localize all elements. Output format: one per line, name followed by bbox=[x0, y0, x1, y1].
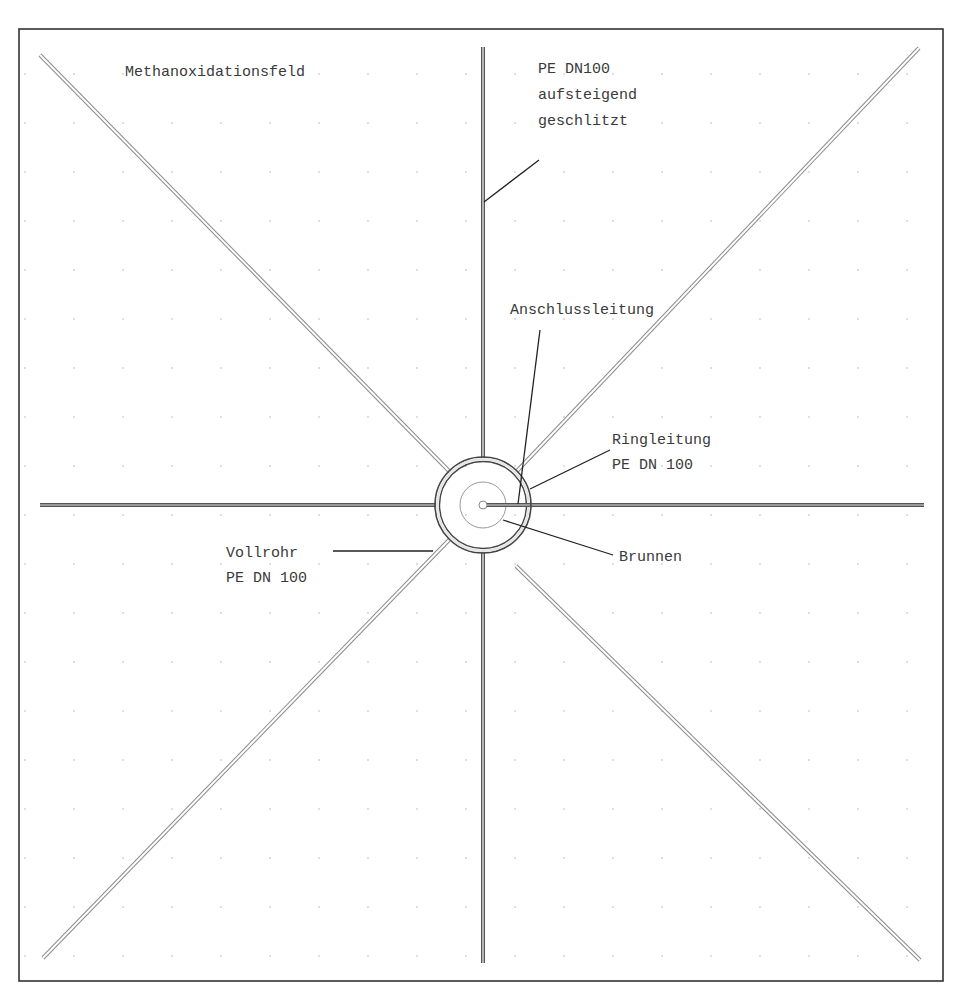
label-solid-line1: Vollrohr bbox=[226, 545, 298, 562]
label-ring-line1: Ringleitung bbox=[612, 432, 711, 449]
label-ring-line2: PE DN 100 bbox=[612, 457, 693, 474]
label-riser-line3: geschlitzt bbox=[538, 113, 628, 130]
label-field: Methanoxidationsfeld bbox=[125, 64, 305, 81]
pipe-layout-drawing: Methanoxidationsfeld PE DN100 aufsteigen… bbox=[0, 0, 965, 1005]
label-riser-line1: PE DN100 bbox=[538, 61, 610, 78]
label-well: Brunnen bbox=[619, 549, 682, 566]
label-riser-line2: aufsteigend bbox=[538, 87, 637, 104]
label-solid-line2: PE DN 100 bbox=[226, 570, 307, 587]
label-connection: Anschlussleitung bbox=[510, 302, 654, 319]
